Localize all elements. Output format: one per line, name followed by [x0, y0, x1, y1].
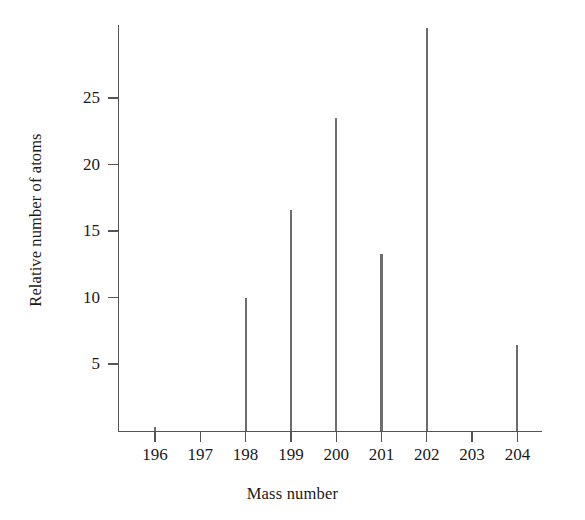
y-axis-line: [118, 25, 119, 432]
x-axis-tick: [245, 431, 246, 442]
x-axis-tick: [381, 431, 382, 442]
y-axis-tick: [108, 164, 119, 165]
x-axis-tick-label: 196: [131, 446, 179, 465]
y-axis-tick-label-wrap: 10: [50, 289, 100, 306]
y-axis-tick-label: 20: [56, 156, 100, 173]
x-axis-tick: [290, 431, 291, 442]
x-axis-tick-label: 200: [312, 446, 360, 465]
x-axis-tick: [154, 431, 155, 442]
data-stick: [245, 298, 247, 431]
x-axis-tick: [426, 431, 427, 442]
data-stick: [290, 210, 292, 431]
y-axis-tick-label: 5: [56, 355, 100, 372]
y-axis-tick-label: 25: [56, 89, 100, 106]
x-axis-tick: [336, 431, 337, 442]
y-axis-tick: [108, 97, 119, 98]
y-axis-tick: [108, 363, 119, 364]
plot-area: 510152025 196197198199200201202203204: [0, 0, 585, 520]
y-axis-tick-label-wrap: 5: [50, 355, 100, 372]
data-stick: [426, 28, 428, 431]
x-axis-tick-label: 201: [358, 446, 406, 465]
x-axis-tick-label: 198: [222, 446, 270, 465]
x-axis-tick-label: 199: [267, 446, 315, 465]
x-axis-tick-label: 197: [176, 446, 224, 465]
mass-spectrum-chart: 510152025 196197198199200201202203204 Re…: [0, 0, 585, 520]
x-axis-title: Mass number: [0, 484, 585, 504]
x-axis-tick-label: 202: [403, 446, 451, 465]
x-axis-tick-label: 204: [493, 446, 541, 465]
y-axis-tick-label-wrap: 25: [50, 89, 100, 106]
x-axis-tick: [517, 431, 518, 442]
y-axis-tick: [108, 230, 119, 231]
data-stick: [335, 118, 337, 431]
y-axis-tick-label-wrap: 20: [50, 156, 100, 173]
y-axis-tick-label-wrap: 15: [50, 222, 100, 239]
data-stick: [154, 427, 156, 431]
y-axis-tick-label: 10: [56, 289, 100, 306]
y-axis-title: Relative number of atoms: [26, 70, 46, 370]
x-axis-tick-label: 203: [448, 446, 496, 465]
x-axis-tick: [200, 431, 201, 442]
y-axis-tick-label: 15: [56, 222, 100, 239]
x-axis-tick: [471, 431, 472, 442]
data-stick: [516, 345, 518, 430]
data-stick: [380, 254, 382, 431]
x-axis-line: [118, 431, 542, 432]
y-axis-tick: [108, 297, 119, 298]
